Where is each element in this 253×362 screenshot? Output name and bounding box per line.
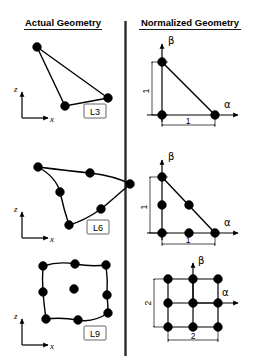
node — [74, 316, 83, 325]
L6-dimension-beta-label: 1 — [139, 204, 149, 209]
z-axis-label: z — [13, 311, 18, 321]
header-actual-geometry-label: Actual Geometry — [25, 17, 102, 28]
node — [56, 188, 65, 197]
L9-actual-edge-right — [106, 265, 108, 313]
element-label-L6: L6 — [87, 220, 109, 234]
node — [103, 291, 112, 300]
L6-actual-edge-top — [38, 167, 130, 184]
L3-dimension-alpha: 1 — [162, 112, 215, 127]
L6-actual-axes: z x — [13, 204, 54, 244]
x-axis-label: x — [49, 341, 54, 351]
node — [185, 201, 194, 210]
z-axis-label: z — [13, 204, 18, 214]
header-actual-geometry: Actual Geometry — [24, 17, 102, 30]
beta-axis-label: β — [198, 255, 204, 266]
node — [39, 288, 48, 297]
header-normalized-geometry: Normalized Geometry — [139, 17, 241, 30]
element-L9-normalized: β α 2 2 — [143, 255, 238, 342]
alpha-axis-label: α — [224, 217, 231, 228]
alpha-axis-label: α — [222, 287, 229, 298]
L3-normalized-hypotenuse — [162, 62, 215, 115]
node — [71, 260, 80, 269]
node — [42, 315, 51, 324]
L3-dimension-beta: 1 — [141, 62, 168, 115]
alpha-axis-label: α — [224, 99, 231, 110]
figure-root: Actual Geometry Normalized Geometry z x … — [0, 0, 253, 362]
element-label-L3-text: L3 — [90, 107, 100, 117]
node — [189, 275, 198, 284]
node — [34, 163, 43, 172]
L6-actual-edge-left — [38, 167, 69, 225]
node — [39, 262, 48, 271]
L9-dimension-beta-label: 2 — [143, 300, 153, 305]
element-label-L3: L3 — [84, 104, 106, 118]
node-center — [189, 299, 198, 308]
node — [65, 221, 74, 230]
element-L3-actual: z x L3 — [13, 43, 112, 124]
node — [86, 169, 95, 178]
L9-dimension-alpha-label: 2 — [191, 331, 196, 341]
L6-dimension-alpha-label: 1 — [186, 235, 191, 245]
node — [214, 299, 223, 308]
element-L3-normalized: β α 1 1 — [141, 35, 238, 127]
node — [214, 275, 223, 284]
node — [102, 261, 111, 270]
beta-axis-label: β — [168, 35, 174, 46]
element-L6-actual: z x L6 — [13, 163, 134, 244]
L3-actual-edges — [37, 47, 108, 106]
geometry-diagram: Actual Geometry Normalized Geometry z x … — [0, 0, 253, 362]
node — [158, 201, 167, 210]
node — [33, 43, 42, 52]
beta-axis-label: β — [168, 151, 174, 162]
element-label-L9-text: L9 — [90, 329, 100, 339]
L6-actual-edge-right — [69, 184, 130, 225]
element-L6-normalized: β α 1 1 — [139, 151, 238, 246]
node — [164, 299, 173, 308]
element-L9-actual: z x L9 — [13, 260, 112, 351]
node-center — [70, 285, 79, 294]
node — [97, 205, 106, 214]
L3-dimension-alpha-label: 1 — [186, 116, 191, 126]
x-axis-label: x — [49, 114, 54, 124]
element-label-L6-text: L6 — [93, 223, 103, 233]
node — [126, 180, 135, 189]
element-label-L9: L9 — [84, 326, 106, 340]
node — [61, 102, 70, 111]
z-axis-label: z — [13, 84, 18, 94]
L3-dimension-beta-label: 1 — [141, 88, 151, 93]
L3-actual-axes: z x — [13, 84, 54, 124]
node — [104, 309, 113, 318]
node — [104, 94, 113, 103]
x-axis-label: x — [49, 234, 54, 244]
header-normalized-geometry-label: Normalized Geometry — [141, 17, 240, 28]
